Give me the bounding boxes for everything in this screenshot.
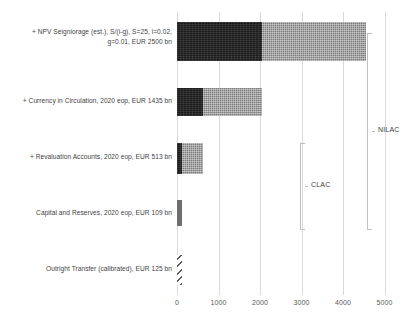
nilac-bracket-tick — [372, 131, 375, 132]
bar-segment-solid — [177, 200, 182, 226]
bar-revaluation-accounts — [177, 143, 203, 174]
category-label-npv-seigniorage: + NPV Seigniorage (est.), S/(i-g), S=25,… — [0, 27, 172, 46]
xtick-label-3000: 3000 — [282, 299, 322, 306]
category-label-revaluation-accounts: + Revaluation Accounts, 2020 eop, EUR 51… — [0, 152, 172, 162]
bar-segment-hatched — [177, 255, 182, 285]
xtick-label-4000: 4000 — [323, 299, 363, 306]
bar-chart: 0 1000 2000 3000 4000 5000 + NPV Seignio… — [0, 0, 415, 330]
category-label-line2: g=0.01, EUR 2500 bn — [0, 37, 172, 47]
clac-bracket — [300, 143, 305, 230]
category-label-line1: + Currency in Circulation, 2020 eop, EUR… — [0, 96, 172, 106]
nilac-bracket-label: NILAC — [378, 126, 400, 133]
bar-npv-seigniorage — [177, 22, 366, 61]
xtick-label-0: 0 — [157, 299, 197, 306]
bar-segment-increment — [262, 22, 366, 61]
bar-currency-in-circulation — [177, 88, 262, 116]
category-label-line1: + NPV Seigniorage (est.), S/(i-g), S=25,… — [0, 27, 172, 37]
category-label-line1: Outright Transfer (calibrated), EUR 125 … — [0, 264, 172, 274]
xtick-label-1000: 1000 — [199, 299, 239, 306]
bar-outright-transfer — [177, 255, 182, 285]
bar-segment-base — [177, 88, 203, 116]
bar-segment-increment — [203, 88, 263, 116]
plot-area — [177, 12, 389, 295]
clac-bracket-tick — [305, 186, 308, 187]
clac-bracket-label: CLAC — [311, 181, 330, 188]
gridline-5000 — [385, 12, 386, 295]
category-label-outright-transfer: Outright Transfer (calibrated), EUR 125 … — [0, 264, 172, 274]
bar-segment-base — [177, 22, 262, 61]
bar-segment-increment — [182, 143, 203, 174]
category-label-line1: Capital and Reserves, 2020 eop, EUR 109 … — [0, 208, 172, 218]
category-label-currency-in-circulation: + Currency in Circulation, 2020 eop, EUR… — [0, 96, 172, 106]
nilac-bracket — [367, 33, 372, 230]
bar-capital-and-reserves — [177, 200, 182, 226]
category-label-capital-and-reserves: Capital and Reserves, 2020 eop, EUR 109 … — [0, 208, 172, 218]
xtick-label-2000: 2000 — [240, 299, 280, 306]
xtick-label-5000: 5000 — [365, 299, 405, 306]
category-label-line1: + Revaluation Accounts, 2020 eop, EUR 51… — [0, 152, 172, 162]
